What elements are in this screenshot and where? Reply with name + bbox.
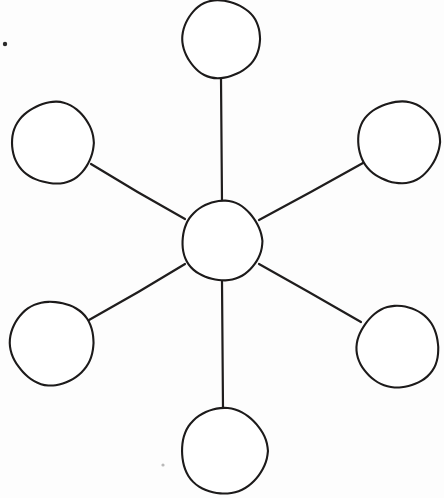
scan-speck-top-left bbox=[3, 42, 7, 46]
spoke-upper-right bbox=[259, 163, 363, 220]
scan-artifacts-group bbox=[3, 42, 165, 467]
node-upper-right[interactable] bbox=[358, 101, 440, 183]
center-node[interactable] bbox=[183, 201, 263, 281]
worksheet-page: Spider Web Graphic Organizer Hand drawn … bbox=[0, 0, 444, 498]
spider-web-diagram bbox=[0, 0, 444, 498]
nodes-group bbox=[10, 0, 440, 493]
node-bottom[interactable] bbox=[182, 408, 268, 494]
spoke-bottom bbox=[222, 281, 223, 409]
node-lower-right[interactable] bbox=[356, 306, 438, 388]
node-top[interactable] bbox=[182, 0, 260, 78]
spoke-upper-left bbox=[91, 164, 185, 219]
spoke-lower-left bbox=[89, 264, 185, 320]
spoke-lower-right bbox=[259, 264, 361, 322]
scan-speck-bottom-mid bbox=[161, 463, 164, 466]
node-upper-left[interactable] bbox=[12, 102, 94, 184]
spoke-top bbox=[221, 78, 222, 203]
node-lower-left[interactable] bbox=[10, 302, 94, 386]
